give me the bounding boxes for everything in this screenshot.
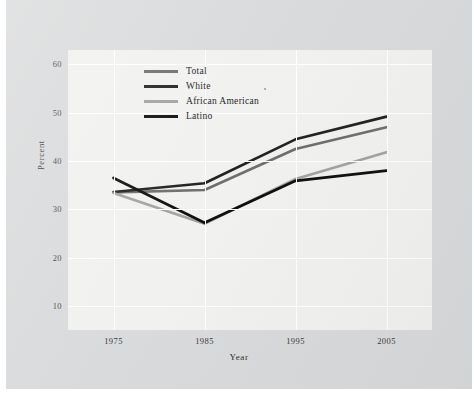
y-tick-label: 60 (40, 59, 62, 69)
x-tick-label: 1995 (274, 336, 318, 346)
y-axis-title: Percent (36, 140, 46, 170)
y-tick-label: 20 (40, 253, 62, 263)
legend-swatch-icon (144, 70, 178, 73)
legend-swatch-icon (144, 115, 178, 118)
y-tick-label: 10 (40, 301, 62, 311)
page-canvas: 102030405060 1975198519952005 Percent Ye… (0, 0, 474, 402)
x-tick-label: 2005 (365, 336, 409, 346)
legend-item: White (144, 79, 334, 94)
legend-swatch-icon (144, 85, 178, 88)
series-line (114, 117, 387, 192)
gridline-horizontal (68, 258, 432, 259)
legend-item: Total (144, 64, 334, 79)
legend-item: African American (144, 94, 334, 109)
gridline-vertical (114, 50, 115, 330)
legend-label: Latino (186, 112, 213, 122)
series-line (114, 127, 387, 192)
scan-speck (264, 88, 266, 90)
legend-item: Latino (144, 109, 334, 124)
y-tick-label: 50 (40, 108, 62, 118)
legend-swatch-icon (144, 100, 178, 103)
gridline-horizontal (68, 161, 432, 162)
x-tick-label: 1985 (183, 336, 227, 346)
x-tick-label: 1975 (92, 336, 136, 346)
chart-legend: TotalWhiteAfrican AmericanLatino (144, 64, 334, 124)
legend-label: African American (186, 97, 259, 107)
legend-label: Total (186, 67, 207, 77)
x-axis-title: Year (6, 352, 472, 362)
series-line (114, 171, 387, 223)
gridline-horizontal (68, 209, 432, 210)
figure-container: 102030405060 1975198519952005 Percent Ye… (6, 0, 472, 389)
legend-label: White (186, 82, 211, 92)
gridline-horizontal (68, 306, 432, 307)
scanned-page: 102030405060 1975198519952005 Percent Ye… (6, 0, 472, 389)
y-tick-label: 30 (40, 204, 62, 214)
gridline-vertical (387, 50, 388, 330)
